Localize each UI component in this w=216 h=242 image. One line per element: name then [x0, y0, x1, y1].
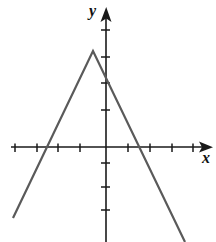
coordinate-plane — [0, 0, 216, 242]
graph-figure: y x — [0, 0, 216, 242]
x-axis-label: x — [202, 150, 210, 166]
y-axis-label: y — [89, 3, 96, 19]
